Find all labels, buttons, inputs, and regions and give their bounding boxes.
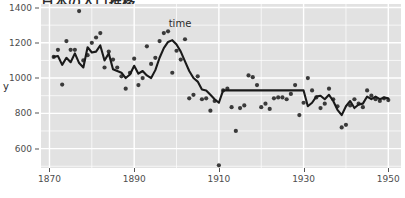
data-point (276, 95, 280, 99)
plot-panel (41, 4, 401, 168)
data-point (73, 48, 77, 52)
data-point (60, 82, 64, 86)
data-point (149, 62, 153, 66)
data-point (64, 39, 68, 43)
data-point (259, 105, 263, 109)
data-point (340, 125, 344, 129)
data-point (153, 56, 157, 60)
data-point (361, 105, 365, 109)
data-point (56, 48, 60, 52)
data-point (187, 96, 191, 100)
data-point (306, 76, 310, 80)
data-point (179, 57, 183, 61)
x-axis-title: time (169, 18, 192, 29)
y-tick-mark (35, 42, 39, 43)
data-point (323, 102, 327, 106)
data-point (272, 96, 276, 100)
data-point (297, 113, 301, 117)
data-point (238, 106, 242, 110)
data-point (365, 88, 369, 92)
data-point (145, 44, 149, 48)
data-point (94, 35, 98, 39)
data-point (200, 97, 204, 101)
data-point (251, 75, 255, 79)
data-point (263, 102, 267, 106)
data-point (301, 101, 305, 105)
data-point (280, 95, 284, 99)
data-point (310, 88, 314, 92)
x-tick-label: 1930 (292, 174, 315, 184)
data-point (293, 83, 297, 87)
data-point (136, 83, 140, 87)
x-tick-mark (219, 168, 220, 172)
plot-canvas (41, 4, 401, 168)
y-tick-label: 1400 (9, 3, 32, 13)
y-tick-label: 800 (15, 108, 32, 118)
x-axis: 18701890191019301950 (41, 168, 401, 198)
data-point (246, 73, 250, 77)
data-point (166, 29, 170, 33)
data-point (318, 106, 322, 110)
data-point (77, 9, 81, 13)
data-point (157, 39, 161, 43)
data-point (115, 65, 119, 69)
data-point (352, 97, 356, 101)
x-tick-label: 1950 (377, 174, 400, 184)
y-tick-mark (35, 148, 39, 149)
data-point (90, 41, 94, 45)
x-tick-label: 1870 (38, 174, 61, 184)
data-point (289, 92, 293, 96)
data-point (191, 93, 195, 97)
y-tick-label: 600 (15, 144, 32, 154)
data-point (285, 97, 289, 101)
data-point (229, 105, 233, 109)
y-tick-mark (35, 7, 39, 8)
data-point (69, 48, 73, 52)
data-point (234, 129, 238, 133)
data-point (141, 76, 145, 80)
data-point (268, 107, 272, 111)
data-point (344, 123, 348, 127)
data-point (204, 96, 208, 100)
data-point (255, 83, 259, 87)
y-tick-mark (35, 78, 39, 79)
data-point (327, 87, 331, 91)
x-tick-mark (134, 168, 135, 172)
data-point (208, 109, 212, 113)
x-tick-label: 1890 (123, 174, 146, 184)
y-tick-label: 1200 (9, 38, 32, 48)
data-point (217, 163, 221, 167)
x-tick-mark (388, 168, 389, 172)
data-point (242, 103, 246, 107)
data-point (102, 65, 106, 69)
data-point (196, 74, 200, 78)
chart-container: 日本の人口推移 600800100012001400 1870189019101… (0, 0, 405, 198)
data-point (124, 87, 128, 91)
x-tick-mark (49, 168, 50, 172)
data-point (162, 31, 166, 35)
data-point (132, 57, 136, 61)
data-point (174, 49, 178, 53)
scatter-points (52, 9, 391, 168)
data-point (98, 31, 102, 35)
y-tick-mark (35, 113, 39, 114)
y-axis-title: y (3, 81, 9, 92)
x-tick-mark (304, 168, 305, 172)
data-point (170, 71, 174, 75)
data-point (183, 37, 187, 41)
y-tick-label: 1000 (9, 73, 32, 83)
x-tick-label: 1910 (207, 174, 230, 184)
